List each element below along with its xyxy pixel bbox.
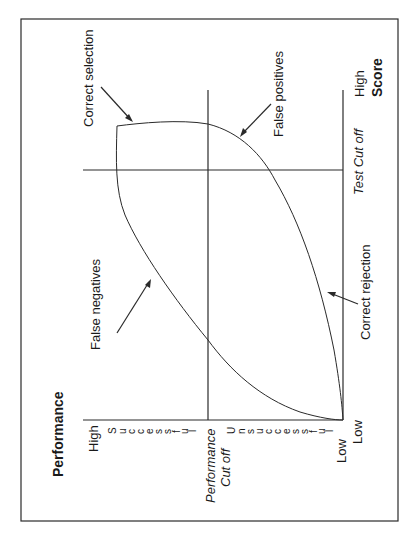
performance-cutoff-label-1: Performance	[203, 429, 218, 503]
successful-letters: S u c c e s s f u l	[107, 427, 198, 434]
performance-low-label: Low	[334, 439, 349, 463]
test-cutoff-label: Test Cut off	[351, 128, 366, 195]
label-false-positives: False positives	[271, 51, 286, 137]
scatter-envelope	[116, 122, 343, 420]
label-correct-rejection: Correct rejection	[358, 245, 373, 340]
label-correct-selection: Correct selection	[81, 29, 96, 127]
arrow-false-positives	[240, 104, 271, 137]
score-high-label: High	[352, 70, 367, 97]
selection-diagram: Correct selection False positives False …	[0, 0, 418, 542]
arrow-correct-selection	[101, 87, 133, 122]
performance-high-label: High	[86, 425, 101, 452]
score-low-label: Low	[350, 420, 365, 444]
arrow-false-negatives	[117, 279, 151, 333]
unsuccessful-letters: U n s u c c e s s f u l	[226, 427, 335, 434]
svg-text:l: l	[324, 430, 335, 432]
performance-cutoff-label-2: Cut off	[218, 447, 233, 487]
axis-title-performance: Performance	[50, 391, 66, 477]
axis-title-score: Score	[369, 58, 385, 97]
label-false-negatives: False negatives	[88, 258, 103, 350]
svg-text:l: l	[187, 430, 198, 432]
